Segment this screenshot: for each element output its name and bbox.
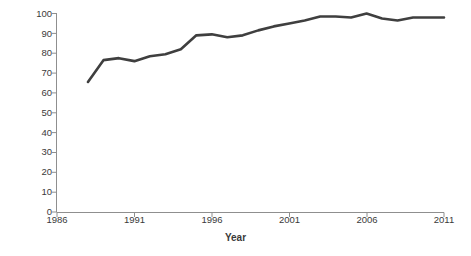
y-axis-ticks bbox=[52, 14, 57, 213]
x-tick-label: 1996 bbox=[182, 214, 242, 225]
x-tick-label: 2001 bbox=[260, 214, 320, 225]
x-axis-title: Year bbox=[0, 232, 471, 243]
x-tick-label: 1991 bbox=[105, 214, 165, 225]
x-tick-label: 2011 bbox=[414, 214, 471, 225]
x-tick-label: 2006 bbox=[337, 214, 397, 225]
compliance-line-chart: % Compliance 100 90 80 70 60 50 40 30 20… bbox=[0, 0, 471, 256]
data-series-line bbox=[88, 14, 444, 82]
x-tick-label: 1986 bbox=[27, 214, 87, 225]
